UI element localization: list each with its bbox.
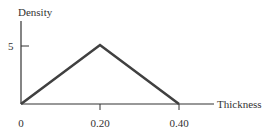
x-tick-label-0.40: 0.40	[169, 117, 189, 129]
chart-canvas: Density 5 Thickness 0 0.20 0.40	[0, 0, 274, 135]
y-tick-label-5: 5	[8, 40, 14, 52]
density-line	[21, 45, 179, 104]
y-axis-label: Density	[18, 6, 53, 18]
x-tick-label-0.20: 0.20	[90, 117, 110, 129]
x-tick-label-0: 0	[18, 117, 24, 129]
x-axis-label: Thickness	[217, 98, 262, 110]
